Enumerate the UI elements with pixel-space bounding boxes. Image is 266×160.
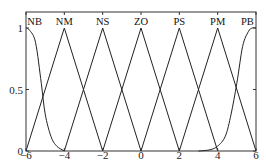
x-tick-label: −2 [97, 149, 109, 160]
x-tick-label: −4 [58, 149, 70, 160]
mf-label-pb: PB [241, 16, 254, 27]
mf-curve-ps [141, 28, 218, 151]
x-tick-label: 6 [253, 149, 259, 160]
plot-frame [26, 12, 256, 151]
y-axis-ticks: 00.51 [9, 22, 256, 157]
y-tick-label: 1 [18, 22, 24, 34]
membership-function-chart: −6−4−20246 00.51 NBNMNSZOPSPMPB [0, 0, 266, 159]
mf-label-nm: NM [56, 16, 74, 27]
x-tick-label: 4 [215, 149, 221, 160]
mf-curve-zo [103, 28, 180, 151]
mf-label-zo: ZO [134, 16, 148, 27]
y-tick-label: 0 [18, 145, 24, 157]
mf-label-nb: NB [27, 16, 42, 27]
x-axis-ticks: −6−4−20246 [20, 12, 259, 159]
x-tick-label: 2 [177, 149, 183, 160]
mf-label-ps: PS [173, 16, 185, 27]
mf-label-ns: NS [96, 16, 110, 27]
mf-curve-ns [64, 28, 141, 151]
mf-label-pm: PM [210, 16, 226, 27]
mf-curve-nm [26, 28, 103, 151]
x-tick-label: 0 [138, 149, 144, 160]
mf-labels: NBNMNSZOPSPMPB [27, 16, 253, 27]
mf-curve-pb [199, 28, 257, 151]
mf-curve-pm [179, 28, 256, 151]
y-tick-label: 0.5 [9, 84, 23, 96]
membership-curves [26, 28, 256, 151]
